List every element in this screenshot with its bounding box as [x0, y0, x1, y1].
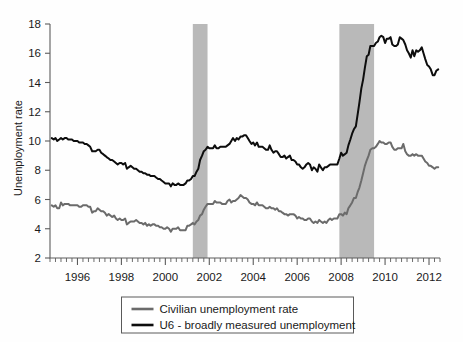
chart-legend: Civilian unemployment rateU6 - broadly m… [122, 297, 356, 333]
y-tick-label: 14 [28, 77, 41, 89]
x-tick-label: 2010 [372, 271, 398, 283]
x-tick-label: 2006 [284, 271, 310, 283]
y-tick-label: 2 [35, 252, 41, 264]
chart-container: 24681012141618 1996199820002002200420062… [0, 0, 463, 342]
x-tick-label: 2008 [328, 271, 354, 283]
x-tick-labels: 199619982000200220042006200820102012 [65, 271, 442, 283]
x-tick-label: 2012 [416, 271, 442, 283]
legend-label: U6 - broadly measured unemployment [160, 319, 356, 331]
y-axis-title: Unemployment rate [12, 100, 24, 196]
y-tick-label: 18 [28, 18, 41, 30]
y-tick-label: 8 [35, 164, 41, 176]
recession-2008 [339, 24, 374, 258]
y-tick-label: 16 [28, 47, 41, 59]
x-tick-label: 2000 [153, 271, 179, 283]
x-tick-label: 1998 [109, 271, 135, 283]
y-tick-label: 4 [35, 223, 42, 235]
y-tick-label: 12 [28, 106, 41, 118]
x-tick-label: 2004 [240, 271, 266, 283]
x-tick-label: 2002 [196, 271, 222, 283]
chart-background [0, 0, 463, 342]
legend-label: Civilian unemployment rate [160, 303, 299, 315]
y-tick-label: 6 [35, 194, 41, 206]
unemployment-line-chart: 24681012141618 1996199820002002200420062… [0, 0, 463, 342]
y-tick-label: 10 [28, 135, 41, 147]
x-tick-label: 1996 [65, 271, 91, 283]
